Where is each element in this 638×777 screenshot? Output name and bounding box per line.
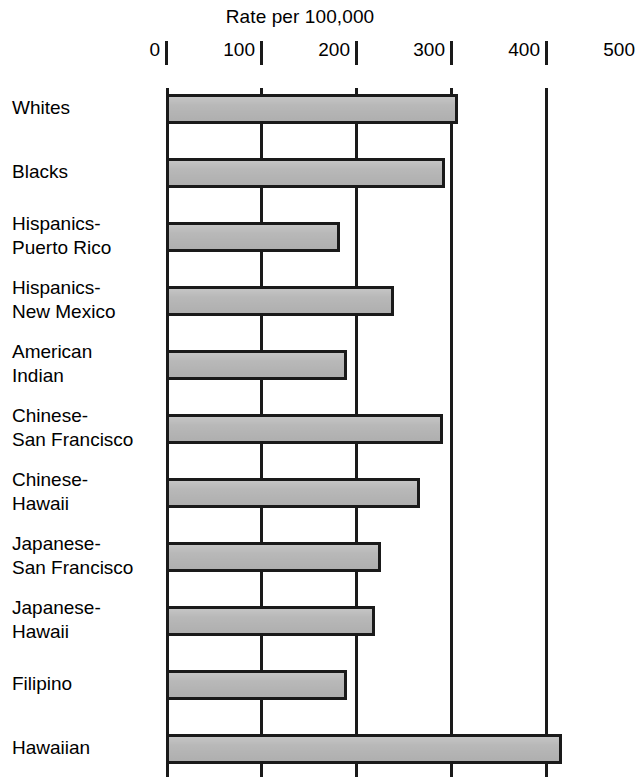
- category-label: American Indian: [12, 340, 164, 388]
- bar-chart-figure: Rate per 100,000 0100200300400500 Whites…: [0, 0, 638, 777]
- category-label: Filipino: [12, 672, 164, 696]
- category-label: Chinese- Hawaii: [12, 468, 164, 516]
- x-axis-tick-mark: [450, 41, 453, 65]
- category-label: Whites: [12, 96, 164, 120]
- category-label: Chinese- San Francisco: [12, 404, 164, 452]
- plot-area: [166, 88, 550, 777]
- bar: [166, 606, 375, 636]
- category-label: Japanese- San Francisco: [12, 532, 164, 580]
- x-axis-tick-mark: [545, 41, 548, 65]
- bar: [166, 478, 420, 508]
- bar: [166, 670, 347, 700]
- x-axis-tick-label: 200: [290, 38, 350, 62]
- category-label: Blacks: [12, 160, 164, 184]
- bar: [166, 158, 445, 188]
- category-label: Japanese- Hawaii: [12, 596, 164, 644]
- x-axis-tick-mark: [260, 41, 263, 65]
- bar: [166, 542, 381, 572]
- category-label: Hawaiian: [12, 736, 164, 760]
- x-axis-tick-label: 400: [480, 38, 540, 62]
- x-axis-tick-label: 100: [195, 38, 255, 62]
- x-axis-tick-row: 0100200300400500: [0, 38, 638, 68]
- bar: [166, 94, 458, 124]
- bar: [166, 222, 340, 252]
- gridline-300: [450, 88, 453, 777]
- x-axis-tick-mark: [165, 41, 168, 65]
- bar: [166, 414, 443, 444]
- category-label: Hispanics- New Mexico: [12, 276, 164, 324]
- x-axis-tick-label: 500: [575, 38, 635, 62]
- bar: [166, 734, 562, 764]
- x-axis-tick-label: 0: [100, 38, 160, 62]
- x-axis-tick-label: 300: [385, 38, 445, 62]
- bar: [166, 286, 394, 316]
- chart-title-text: Rate per 100,000: [226, 6, 374, 28]
- category-label: Hispanics- Puerto Rico: [12, 212, 164, 260]
- gridline-400: [545, 88, 548, 777]
- x-axis-tick-mark: [355, 41, 358, 65]
- bar: [166, 350, 347, 380]
- chart-title: Rate per 100,000: [0, 6, 638, 28]
